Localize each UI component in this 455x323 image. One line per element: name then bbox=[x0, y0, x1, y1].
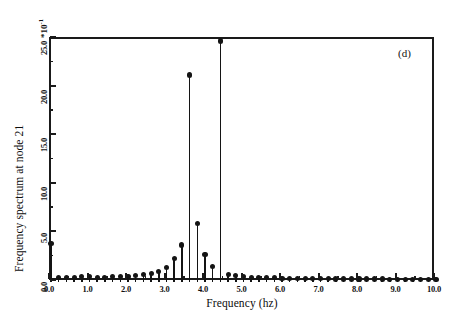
x-major-tick bbox=[279, 273, 281, 279]
x-major-tick bbox=[395, 273, 397, 279]
x-tick-label-5: 5.0 bbox=[236, 284, 246, 294]
y-minor-tick bbox=[50, 206, 53, 208]
x-minor-tick bbox=[222, 276, 224, 279]
panel-label: (d) bbox=[398, 47, 411, 59]
y-major-tick bbox=[50, 85, 56, 87]
x-minor-tick bbox=[299, 276, 301, 279]
x-tick-label-4: 4.0 bbox=[198, 284, 208, 294]
x-minor-tick bbox=[260, 276, 262, 279]
x-tick-label-8: 8.0 bbox=[352, 284, 362, 294]
y-minor-tick bbox=[50, 158, 53, 160]
x-tick-label-7: 7.0 bbox=[313, 284, 323, 294]
x-tick-label-0: 0.0 bbox=[44, 284, 54, 294]
x-minor-tick bbox=[376, 276, 378, 279]
y-minor-tick bbox=[50, 255, 53, 257]
x-major-tick bbox=[318, 273, 320, 279]
axis-ticks-layer: 0.01.02.03.04.05.06.07.08.09.010.0 bbox=[0, 0, 455, 323]
figure-chart-frequency-spectrum: *10-1 Frequency spectrum at node 21 0.0 … bbox=[0, 0, 455, 323]
x-major-tick bbox=[202, 273, 204, 279]
x-major-tick bbox=[125, 273, 127, 279]
x-minor-tick bbox=[145, 276, 147, 279]
x-tick-label-1: 1.0 bbox=[82, 284, 92, 294]
x-major-tick bbox=[164, 273, 166, 279]
x-tick-label-10: 10.0 bbox=[427, 284, 441, 294]
y-major-tick bbox=[50, 133, 56, 135]
x-major-tick bbox=[356, 273, 358, 279]
y-minor-tick bbox=[50, 109, 53, 111]
x-tick-label-6: 6.0 bbox=[275, 284, 285, 294]
x-tick-label-9: 9.0 bbox=[390, 284, 400, 294]
y-major-tick bbox=[50, 230, 56, 232]
y-major-tick bbox=[50, 36, 56, 38]
y-major-tick bbox=[50, 279, 56, 281]
x-minor-tick bbox=[183, 276, 185, 279]
y-minor-tick bbox=[50, 61, 53, 63]
x-minor-tick bbox=[106, 276, 108, 279]
x-tick-label-2: 2.0 bbox=[121, 284, 131, 294]
x-minor-tick bbox=[68, 276, 70, 279]
x-major-tick bbox=[87, 273, 89, 279]
x-minor-tick bbox=[414, 276, 416, 279]
y-major-tick bbox=[50, 182, 56, 184]
x-minor-tick bbox=[337, 276, 339, 279]
x-tick-label-3: 3.0 bbox=[159, 284, 169, 294]
x-major-tick bbox=[433, 273, 435, 279]
x-major-tick bbox=[241, 273, 243, 279]
